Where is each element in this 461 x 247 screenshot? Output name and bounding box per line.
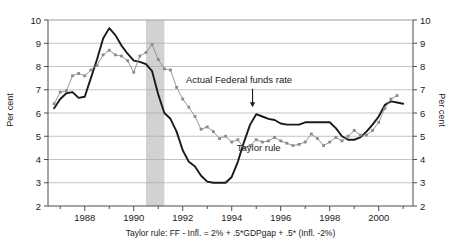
line-chart-plot: 2345678910 2345678910 198819901992199419… — [0, 0, 461, 225]
svg-text:1990: 1990 — [123, 212, 144, 223]
svg-text:7: 7 — [36, 84, 41, 95]
y-axis-ticks-left: 2345678910 — [30, 15, 48, 212]
gridlines — [48, 20, 413, 183]
svg-text:3: 3 — [36, 177, 41, 188]
svg-text:5: 5 — [36, 131, 41, 142]
svg-text:10: 10 — [30, 15, 41, 26]
svg-text:1998: 1998 — [319, 212, 340, 223]
svg-text:1996: 1996 — [270, 212, 291, 223]
svg-text:8: 8 — [36, 61, 41, 72]
y-axis-ticks-right: 2345678910 — [413, 15, 431, 212]
svg-text:1988: 1988 — [74, 212, 95, 223]
svg-text:8: 8 — [420, 61, 425, 72]
svg-text:7: 7 — [420, 84, 425, 95]
svg-text:10: 10 — [420, 15, 431, 26]
svg-text:1992: 1992 — [172, 212, 193, 223]
chart-annotations: Actual Federal funds rateTaylor rule — [186, 74, 292, 154]
y-axis-label-left: Per cent — [5, 80, 15, 140]
svg-text:1994: 1994 — [221, 212, 242, 223]
svg-text:4: 4 — [420, 154, 425, 165]
svg-text:2: 2 — [36, 201, 41, 212]
svg-text:3: 3 — [420, 177, 425, 188]
svg-text:6: 6 — [420, 108, 425, 119]
chart-figure: Per cent Per cent 2345678910 2345678910 … — [0, 0, 461, 247]
x-axis-ticks: 1988199019921994199619982000 — [60, 206, 403, 223]
footnote-text: Taylor rule: FF - Infl. = 2% + .5*GDPgap… — [0, 228, 461, 238]
svg-text:4: 4 — [36, 154, 41, 165]
annotation-actual-ffr: Actual Federal funds rate — [186, 74, 292, 85]
svg-text:6: 6 — [36, 108, 41, 119]
svg-text:9: 9 — [36, 38, 41, 49]
svg-text:9: 9 — [420, 38, 425, 49]
annotation-taylor-rule: Taylor rule — [237, 142, 281, 153]
svg-text:2: 2 — [420, 201, 425, 212]
svg-text:2000: 2000 — [368, 212, 389, 223]
svg-text:5: 5 — [420, 131, 425, 142]
y-axis-label-right: Per cent — [437, 80, 447, 140]
